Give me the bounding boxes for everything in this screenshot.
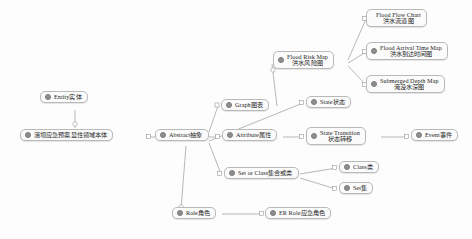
node-bullet-icon — [229, 170, 235, 176]
node-label-zh: 溃坝应急预案显性领域本体 — [34, 132, 107, 138]
node-state[interactable]: State 状态 — [306, 96, 351, 108]
node-label-zh: 图表 — [251, 102, 263, 108]
node-flood-risk-map[interactable]: Flood Risk Map 洪水风险图 — [273, 51, 334, 69]
node-label-en: Abstract — [169, 132, 190, 138]
node-bullet-icon — [371, 48, 377, 54]
node-label-en: Set — [353, 185, 361, 191]
node-label-en: Attribute — [236, 132, 259, 138]
node-label-zh: 状态转移 — [328, 136, 352, 142]
junction-marker — [333, 187, 337, 191]
junction-marker — [218, 172, 222, 176]
node-label-zh: 事件 — [440, 132, 452, 138]
node-label-zh: 角色 — [198, 210, 210, 216]
junction-marker — [260, 212, 264, 216]
node-bullet-icon — [278, 57, 284, 63]
junction-marker — [73, 122, 77, 126]
node-bullet-icon — [226, 102, 232, 108]
edge-setorclass-class — [300, 168, 336, 174]
node-label-zh: 淹没水深图 — [394, 84, 425, 90]
edge-floodriskmap-floodflowchart — [348, 19, 366, 60]
node-submerged-depth-map[interactable]: Submerged Depth Map 淹没水深图 — [366, 75, 445, 93]
edge-graph-floodriskmap — [272, 64, 277, 106]
edge-floodriskmap-submerged — [348, 66, 366, 85]
node-bullet-icon — [227, 132, 233, 138]
node-label-en: Graph — [235, 102, 251, 108]
node-bullet-icon — [311, 133, 317, 139]
node-set-or-class[interactable]: Set or Class 集合或类 — [224, 167, 299, 179]
edge-abstract-role — [181, 146, 186, 209]
node-graph[interactable]: Graph 图表 — [221, 99, 269, 111]
node-label-en: Role — [186, 210, 198, 216]
node-label-en: Class — [353, 164, 367, 170]
node-label-zh: 应急角色 — [301, 210, 325, 216]
node-label-zh: 洪水风险图 — [292, 60, 323, 66]
node-label-zh: 状态 — [333, 99, 345, 105]
junction-marker — [147, 135, 151, 139]
node-label-zh: 集 — [361, 185, 367, 191]
node-flood-flow-chart[interactable]: Flood Flow Chart 洪水流道图 — [366, 9, 427, 27]
edge-setorclass-set — [300, 178, 336, 189]
node-label-zh: 集合或类 — [268, 170, 292, 176]
edge-abstract-graph — [209, 106, 218, 132]
node-bullet-icon — [311, 99, 317, 105]
edge-layer — [0, 0, 472, 239]
node-bullet-icon — [416, 132, 422, 138]
node-label-en: ER Role — [279, 210, 301, 216]
node-abstract[interactable]: Abstract 抽象 — [155, 129, 209, 141]
junction-marker — [300, 135, 304, 139]
node-label-en: Set or Class — [238, 170, 268, 176]
node-state-transition[interactable]: State Transition 状态转移 — [306, 127, 366, 145]
junction-marker — [271, 68, 275, 72]
node-entity[interactable]: Entity 实体 — [40, 91, 88, 103]
junction-marker — [405, 135, 409, 139]
node-label-en: State — [320, 99, 333, 105]
node-event[interactable]: Event 事件 — [411, 129, 458, 141]
junction-marker — [216, 135, 220, 139]
node-label-zh: 抽象 — [190, 132, 202, 138]
node-label-en: Entity — [54, 94, 69, 100]
edge-floodriskmap-floodarrival — [348, 52, 366, 63]
node-bullet-icon — [177, 210, 183, 216]
node-role[interactable]: Role 角色 — [172, 207, 216, 219]
node-bullet-icon — [25, 132, 31, 138]
edge-abstract-setorclass — [209, 143, 221, 174]
node-bullet-icon — [344, 185, 350, 191]
node-bullet-icon — [371, 81, 377, 87]
node-bullet-icon — [344, 164, 350, 170]
node-bullet-icon — [270, 210, 276, 216]
node-class[interactable]: Class 类 — [339, 161, 379, 173]
mindmap-canvas: 溃坝应急预案显性领域本体 Entity 实体 Abstract 抽象 Graph… — [0, 0, 472, 239]
node-flood-arrival-time-map[interactable]: Flood Arrival Time Map 洪水到达时间图 — [366, 42, 448, 60]
node-label-en: Event — [425, 132, 440, 138]
node-root[interactable]: 溃坝应急预案显性领域本体 — [20, 129, 113, 141]
node-label-zh: 实体 — [69, 94, 81, 100]
node-bullet-icon — [45, 94, 51, 100]
node-label-zh: 属性 — [259, 132, 271, 138]
node-set[interactable]: Set 集 — [339, 182, 373, 194]
node-label-zh: 洪水到达时间图 — [390, 51, 433, 57]
junction-marker — [300, 101, 304, 105]
node-bullet-icon — [160, 132, 166, 138]
node-label-zh: 洪水流道图 — [383, 18, 414, 24]
node-attribute[interactable]: Attribute 属性 — [222, 129, 277, 141]
junction-marker — [215, 103, 219, 107]
junction-marker — [333, 166, 337, 170]
node-er-role[interactable]: ER Role 应急角色 — [265, 207, 331, 219]
node-label-zh: 类 — [367, 164, 373, 170]
